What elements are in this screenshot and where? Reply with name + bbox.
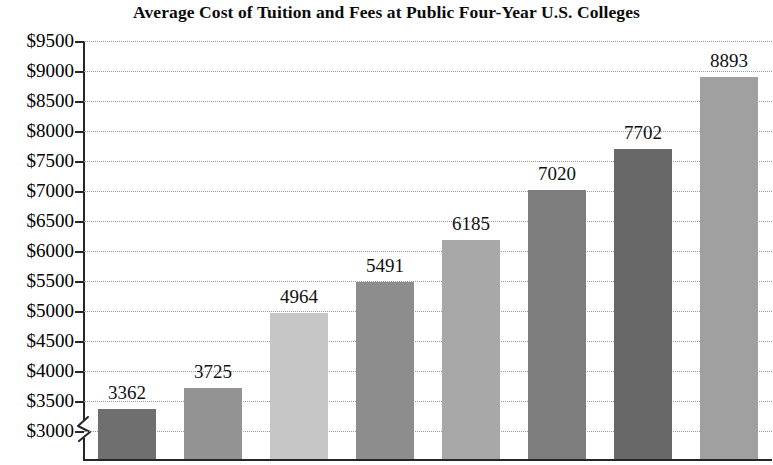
bar-value-label: 8893 <box>684 51 773 70</box>
y-axis-tick-label: $4500 <box>27 331 75 350</box>
bar <box>442 240 500 459</box>
bar-value-label: 3725 <box>168 362 258 381</box>
y-axis-tick-label: $9500 <box>27 31 75 50</box>
y-axis-tick-label: $8000 <box>27 121 75 140</box>
y-axis-tick <box>75 371 84 373</box>
y-axis-line <box>83 41 85 420</box>
bar-value-label: 5491 <box>340 256 430 275</box>
bar-value-label: 6185 <box>426 214 516 233</box>
chart-container: Average Cost of Tuition and Fees at Publ… <box>0 0 773 465</box>
y-axis-tick-label: $4000 <box>27 361 75 380</box>
y-axis-tick <box>75 431 84 433</box>
y-axis-tick-label: $7000 <box>27 181 75 200</box>
y-axis-tick <box>75 251 84 253</box>
y-axis-tick <box>75 161 84 163</box>
bar <box>270 313 328 459</box>
y-axis-tick <box>75 341 84 343</box>
x-axis-line <box>83 459 772 461</box>
y-axis-tick <box>75 191 84 193</box>
y-axis-tick-label: $5000 <box>27 301 75 320</box>
gridline <box>84 71 772 72</box>
y-axis-tick-label: $8500 <box>27 91 75 110</box>
bar-value-label: 7020 <box>512 164 602 183</box>
y-axis-tick-label: $3500 <box>27 391 75 410</box>
bar <box>184 388 242 460</box>
y-axis-tick <box>75 131 84 133</box>
bar <box>700 77 758 459</box>
y-axis-tick <box>75 311 84 313</box>
y-axis-tick <box>75 221 84 223</box>
axis-break-icon <box>74 416 96 442</box>
y-axis-tick <box>75 41 84 43</box>
y-axis-tick-label: $3000 <box>27 421 75 440</box>
y-axis-tick-label: $6000 <box>27 241 75 260</box>
bar <box>614 149 672 459</box>
bar-value-label: 4964 <box>254 287 344 306</box>
y-axis-tick <box>75 101 84 103</box>
chart-title: Average Cost of Tuition and Fees at Publ… <box>0 2 773 23</box>
bar <box>356 282 414 459</box>
bar-value-label: 3362 <box>82 383 172 402</box>
y-axis-tick-label: $7500 <box>27 151 75 170</box>
bar-value-label: 7702 <box>598 123 688 142</box>
bar <box>528 190 586 459</box>
bar <box>98 409 156 459</box>
gridline <box>84 101 772 102</box>
y-axis-tick <box>75 281 84 283</box>
y-axis-tick-label: $9000 <box>27 61 75 80</box>
gridline <box>84 41 772 42</box>
y-axis-tick-label: $5500 <box>27 271 75 290</box>
y-axis-tick-label: $6500 <box>27 211 75 230</box>
y-axis-tick <box>75 71 84 73</box>
